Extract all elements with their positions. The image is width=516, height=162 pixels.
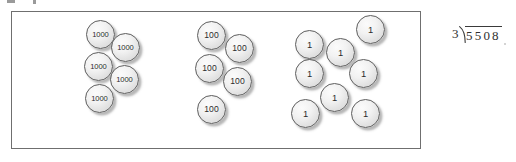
dividend: 5508 — [466, 28, 501, 43]
disc-group-ones: 1 1 1 1 1 1 1 1 — [12, 12, 420, 148]
worksheet-canvas: 1000 1000 1000 1000 1000 100 100 100 100… — [0, 0, 516, 162]
scan-speck — [504, 43, 506, 45]
crop-artifact-mark — [7, 0, 15, 3]
counter-disc[interactable]: 1 — [295, 30, 324, 59]
long-division-problem: 3 5508 — [452, 26, 502, 43]
crop-artifact-mark — [33, 0, 36, 4]
counter-disc[interactable]: 1 — [320, 83, 349, 112]
counter-disc[interactable]: 1 — [351, 99, 380, 128]
dividend-under-bar: 5508 — [465, 26, 502, 43]
divisor: 3 — [452, 26, 459, 42]
counter-disc[interactable]: 1 — [349, 59, 378, 88]
counter-disc[interactable]: 1 — [356, 15, 385, 44]
counter-disc[interactable]: 1 — [326, 38, 355, 67]
counter-disc[interactable]: 1 — [295, 59, 324, 88]
counter-disc[interactable]: 1 — [291, 99, 320, 128]
counter-box: 1000 1000 1000 1000 1000 100 100 100 100… — [11, 11, 421, 149]
